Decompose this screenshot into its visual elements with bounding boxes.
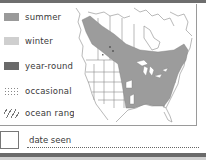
north-america-map-icon — [74, 4, 196, 125]
legend-label: winter — [25, 36, 53, 46]
occasional-dotted-swatch — [4, 87, 19, 95]
date-seen-input-line[interactable] — [27, 147, 199, 148]
seen-checkbox[interactable] — [0, 131, 19, 149]
legend-item-summer: summer — [4, 11, 61, 23]
legend-label: year-round — [25, 61, 73, 71]
year-round-swatch — [4, 62, 19, 70]
winter-swatch — [4, 37, 19, 45]
legend-item-winter: winter — [4, 35, 53, 47]
range-map — [74, 4, 197, 126]
top-border — [0, 0, 206, 3]
bottom-border-shadow — [0, 157, 206, 160]
legend-item-ocean-range: ocean range — [4, 107, 80, 119]
summer-swatch — [4, 13, 19, 21]
legend-item-year-round: year-round — [4, 60, 73, 72]
legend-item-occasional: occasional — [4, 85, 72, 97]
date-seen-label: date seen — [29, 135, 71, 145]
legend-label: summer — [25, 12, 61, 22]
legend-panel: summer winter year-round occasional ocea… — [0, 4, 75, 126]
legend-label: occasional — [25, 86, 72, 96]
ocean-range-hatch-swatch — [4, 109, 19, 118]
legend-label: ocean range — [25, 108, 80, 118]
